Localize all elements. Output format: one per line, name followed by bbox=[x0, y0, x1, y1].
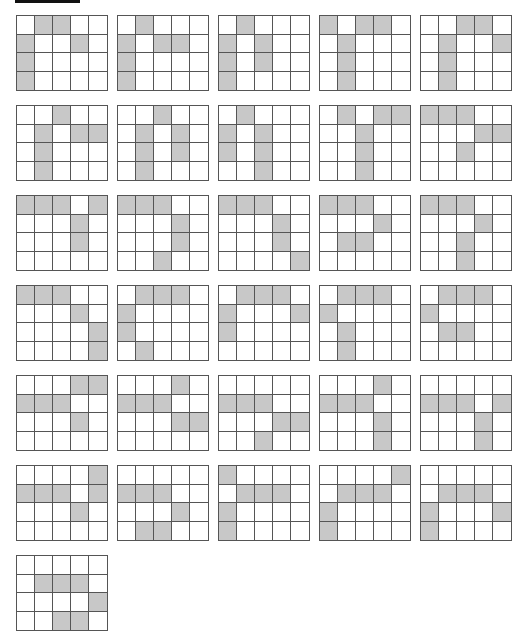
empty-cell bbox=[392, 342, 410, 361]
empty-cell bbox=[291, 286, 309, 305]
empty-cell bbox=[190, 286, 208, 305]
filled-cell bbox=[35, 125, 53, 144]
empty-cell bbox=[53, 432, 71, 451]
empty-cell bbox=[154, 466, 172, 485]
empty-cell bbox=[190, 35, 208, 54]
empty-cell bbox=[89, 395, 107, 414]
empty-cell bbox=[89, 556, 107, 575]
filled-cell bbox=[219, 125, 237, 144]
empty-cell bbox=[154, 16, 172, 35]
empty-cell bbox=[320, 233, 338, 252]
empty-cell bbox=[457, 466, 475, 485]
filled-cell bbox=[172, 125, 190, 144]
empty-cell bbox=[136, 35, 154, 54]
empty-cell bbox=[17, 16, 35, 35]
empty-cell bbox=[392, 376, 410, 395]
empty-cell bbox=[118, 522, 136, 541]
filled-cell bbox=[374, 106, 392, 125]
empty-cell bbox=[273, 503, 291, 522]
empty-cell bbox=[118, 342, 136, 361]
empty-cell bbox=[392, 503, 410, 522]
empty-cell bbox=[35, 593, 53, 612]
empty-cell bbox=[493, 162, 511, 181]
empty-cell bbox=[457, 125, 475, 144]
empty-cell bbox=[493, 286, 511, 305]
filled-cell bbox=[457, 252, 475, 271]
filled-cell bbox=[356, 395, 374, 414]
empty-cell bbox=[35, 432, 53, 451]
empty-cell bbox=[475, 72, 493, 91]
empty-cell bbox=[71, 342, 89, 361]
filled-cell bbox=[219, 35, 237, 54]
empty-cell bbox=[71, 593, 89, 612]
empty-cell bbox=[71, 485, 89, 504]
empty-cell bbox=[291, 72, 309, 91]
empty-cell bbox=[172, 53, 190, 72]
empty-cell bbox=[493, 53, 511, 72]
empty-cell bbox=[475, 522, 493, 541]
empty-cell bbox=[493, 143, 511, 162]
filled-cell bbox=[172, 143, 190, 162]
empty-cell bbox=[53, 35, 71, 54]
filled-cell bbox=[154, 252, 172, 271]
empty-cell bbox=[475, 305, 493, 324]
empty-cell bbox=[291, 143, 309, 162]
empty-cell bbox=[273, 125, 291, 144]
filled-cell bbox=[172, 376, 190, 395]
empty-cell bbox=[237, 342, 255, 361]
filled-cell bbox=[154, 196, 172, 215]
empty-cell bbox=[219, 342, 237, 361]
empty-cell bbox=[475, 376, 493, 395]
pattern-grid bbox=[218, 375, 310, 451]
filled-cell bbox=[255, 485, 273, 504]
empty-cell bbox=[374, 503, 392, 522]
empty-cell bbox=[89, 215, 107, 234]
empty-cell bbox=[255, 413, 273, 432]
empty-cell bbox=[35, 522, 53, 541]
empty-cell bbox=[190, 16, 208, 35]
empty-cell bbox=[273, 16, 291, 35]
empty-cell bbox=[17, 575, 35, 594]
empty-cell bbox=[493, 432, 511, 451]
empty-cell bbox=[118, 432, 136, 451]
empty-cell bbox=[89, 53, 107, 72]
empty-cell bbox=[35, 503, 53, 522]
empty-cell bbox=[17, 593, 35, 612]
empty-cell bbox=[374, 323, 392, 342]
empty-cell bbox=[439, 16, 457, 35]
empty-cell bbox=[493, 215, 511, 234]
empty-cell bbox=[71, 395, 89, 414]
empty-cell bbox=[493, 252, 511, 271]
empty-cell bbox=[421, 162, 439, 181]
empty-cell bbox=[457, 162, 475, 181]
empty-cell bbox=[89, 233, 107, 252]
empty-cell bbox=[17, 215, 35, 234]
empty-cell bbox=[356, 503, 374, 522]
empty-cell bbox=[237, 466, 255, 485]
empty-cell bbox=[320, 342, 338, 361]
filled-cell bbox=[71, 413, 89, 432]
filled-cell bbox=[439, 395, 457, 414]
empty-cell bbox=[273, 432, 291, 451]
filled-cell bbox=[320, 196, 338, 215]
empty-cell bbox=[439, 305, 457, 324]
filled-cell bbox=[493, 503, 511, 522]
empty-cell bbox=[457, 432, 475, 451]
filled-cell bbox=[338, 196, 356, 215]
empty-cell bbox=[190, 376, 208, 395]
empty-cell bbox=[457, 413, 475, 432]
empty-cell bbox=[255, 16, 273, 35]
filled-cell bbox=[53, 196, 71, 215]
empty-cell bbox=[190, 125, 208, 144]
empty-cell bbox=[136, 503, 154, 522]
empty-cell bbox=[237, 432, 255, 451]
empty-cell bbox=[35, 466, 53, 485]
empty-cell bbox=[255, 233, 273, 252]
empty-cell bbox=[320, 413, 338, 432]
empty-cell bbox=[118, 466, 136, 485]
filled-cell bbox=[35, 162, 53, 181]
empty-cell bbox=[71, 53, 89, 72]
empty-cell bbox=[136, 323, 154, 342]
empty-cell bbox=[35, 233, 53, 252]
filled-cell bbox=[53, 612, 71, 631]
